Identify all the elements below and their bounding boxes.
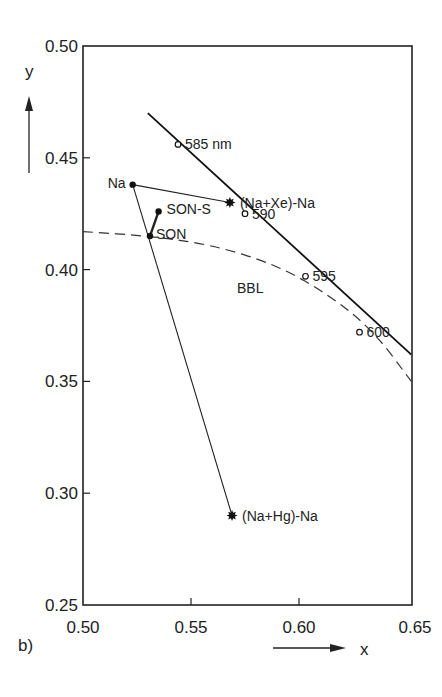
star-marker bbox=[224, 197, 235, 208]
x-tick-label: 0.60 bbox=[282, 618, 315, 637]
y-tick-label: 0.35 bbox=[45, 372, 78, 391]
y-tick-label: 0.30 bbox=[45, 484, 78, 503]
chromaticity-chart: 0.500.550.600.650.500.450.400.350.300.25… bbox=[0, 0, 442, 697]
wavelength-label: 585 nm bbox=[185, 136, 232, 152]
x-tick-label: 0.65 bbox=[398, 618, 431, 637]
dot-marker bbox=[129, 181, 135, 187]
y-axis-label: y bbox=[25, 62, 34, 81]
wavelength-mark bbox=[303, 274, 309, 280]
wavelength-mark bbox=[357, 329, 363, 335]
y-tick-label: 0.45 bbox=[45, 149, 78, 168]
wavelength-label: 595 bbox=[312, 268, 336, 284]
x-axis-label: x bbox=[360, 640, 369, 659]
wavelength-label: 600 bbox=[366, 324, 390, 340]
x-tick-label: 0.50 bbox=[66, 618, 99, 637]
star-marker bbox=[227, 510, 238, 521]
point-label: SON-S bbox=[167, 201, 211, 217]
wavelength-mark bbox=[242, 211, 248, 217]
y-tick-label: 0.25 bbox=[45, 596, 78, 615]
panel-label: b) bbox=[18, 636, 33, 655]
x-axis-arrow-icon bbox=[273, 644, 346, 652]
black-body-locus bbox=[83, 232, 411, 382]
spectrum-locus: 585 nm590595600 bbox=[148, 113, 412, 354]
data-points: NaSON-SSON(Na+Xe)-Na(Na+Hg)-Na bbox=[108, 175, 318, 524]
dot-marker bbox=[147, 233, 153, 239]
point-label: (Na+Xe)-Na bbox=[240, 195, 315, 211]
point-label: Na bbox=[108, 175, 126, 191]
point-label: (Na+Hg)-Na bbox=[242, 508, 318, 524]
y-tick-label: 0.40 bbox=[45, 261, 78, 280]
dot-marker bbox=[155, 208, 161, 214]
x-tick-label: 0.55 bbox=[174, 618, 207, 637]
y-axis-arrow-icon bbox=[25, 96, 33, 173]
bbl-label: BBL bbox=[237, 280, 264, 296]
wavelength-mark bbox=[175, 142, 181, 148]
y-tick-label: 0.50 bbox=[45, 37, 78, 56]
point-label: SON bbox=[156, 226, 186, 242]
